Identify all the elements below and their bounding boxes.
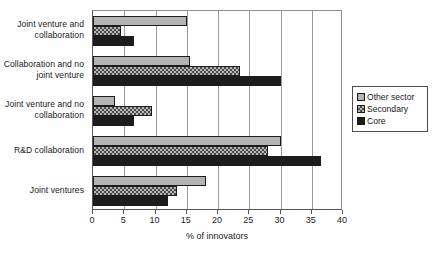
bar-other-sector-3 [93, 96, 115, 106]
x-axis-tick [342, 210, 343, 214]
legend-label-secondary: Secondary [367, 104, 408, 114]
x-axis-tick-label: 30 [268, 215, 292, 225]
x-axis-tick [186, 210, 187, 214]
category-label: Collaboration and no joint venture [0, 59, 84, 81]
x-axis-tick [311, 210, 312, 214]
plot-area [92, 10, 342, 210]
x-axis-title: % of innovators [92, 231, 342, 241]
x-axis-tick [123, 210, 124, 214]
bar-secondary-5 [93, 186, 177, 196]
x-axis-tick [217, 210, 218, 214]
x-axis-tick-label: 10 [143, 215, 167, 225]
legend-label-other-sector: Other sector [367, 92, 414, 102]
gridline [312, 11, 313, 209]
x-axis-tick-label: 5 [111, 215, 135, 225]
category-axis-labels: Joint venture and collaborationCollabora… [0, 10, 88, 210]
x-axis-tick-label: 0 [80, 215, 104, 225]
legend-label-core: Core [367, 116, 386, 126]
category-label: R&D collaboration [0, 145, 84, 156]
bar-chart: Joint venture and collaborationCollabora… [0, 0, 433, 253]
chart-legend: Other sector Secondary Core [352, 86, 428, 132]
bar-secondary-3 [93, 106, 152, 116]
x-axis-tick [92, 210, 93, 214]
x-axis-tick-label: 20 [205, 215, 229, 225]
bar-other-sector-5 [93, 176, 206, 186]
legend-item-secondary: Secondary [357, 103, 424, 115]
gridline [249, 11, 250, 209]
category-label: Joint venture and no collaboration [0, 99, 84, 121]
bar-other-sector-2 [93, 56, 190, 66]
gridline [218, 11, 219, 209]
gridline [281, 11, 282, 209]
x-axis-tick [248, 210, 249, 214]
x-axis-tick-label: 25 [236, 215, 260, 225]
x-axis-tick [280, 210, 281, 214]
bar-core-3 [93, 116, 134, 126]
bar-secondary-2 [93, 66, 240, 76]
bar-secondary-4 [93, 146, 268, 156]
bar-core-1 [93, 36, 134, 46]
legend-swatch-core-icon [357, 117, 365, 125]
bar-core-2 [93, 76, 281, 86]
bar-other-sector-1 [93, 16, 187, 26]
legend-swatch-secondary-icon [357, 105, 365, 113]
bar-core-4 [93, 156, 321, 166]
legend-item-other-sector: Other sector [357, 91, 424, 103]
x-axis-tick [155, 210, 156, 214]
bar-core-5 [93, 196, 168, 206]
legend-swatch-other-sector-icon [357, 93, 365, 101]
category-label: Joint ventures [0, 185, 84, 196]
legend-item-core: Core [357, 115, 424, 127]
category-label: Joint venture and collaboration [0, 19, 84, 41]
x-axis-tick-label: 40 [330, 215, 354, 225]
x-axis-tick-label: 15 [174, 215, 198, 225]
bar-secondary-1 [93, 26, 121, 36]
x-axis-tick-label: 35 [299, 215, 323, 225]
bar-other-sector-4 [93, 136, 281, 146]
